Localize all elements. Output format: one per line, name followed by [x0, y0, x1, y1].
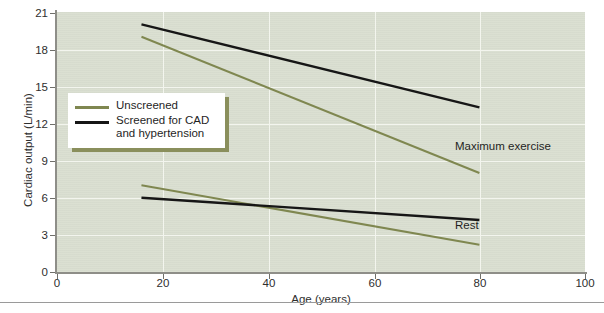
annotation-rest: Rest: [455, 219, 479, 231]
footer-divider: [0, 302, 604, 303]
legend-swatch-black-icon: [75, 121, 109, 124]
legend-item-screened: Screened for CAD and hypertension: [75, 114, 218, 141]
legend-label-screened: Screened for CAD and hypertension: [116, 114, 209, 141]
legend-item-unscreened: Unscreened: [75, 99, 218, 113]
data-lines-layer: [0, 0, 604, 313]
cardiac-output-figure: 0 3 6 9 12 15 18 21 0 20 40 60 80 100 Ag…: [0, 0, 604, 313]
legend-label-screened-line2: and hypertension: [116, 127, 204, 139]
chart-legend: Unscreened Screened for CAD and hyperten…: [68, 93, 225, 148]
legend-swatch-olive-icon: [75, 106, 109, 109]
legend-label-unscreened: Unscreened: [116, 99, 178, 113]
legend-label-screened-line1: Screened for CAD: [116, 114, 209, 126]
annotation-maximum-exercise: Maximum exercise: [455, 140, 551, 152]
series-line: [141, 185, 479, 244]
series-line: [141, 198, 479, 220]
